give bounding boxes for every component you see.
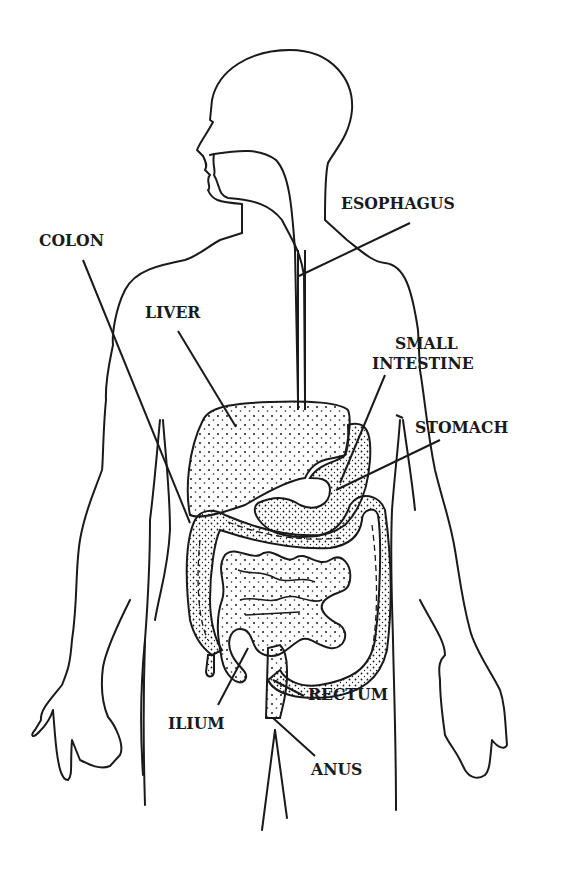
leader-anus: [273, 718, 315, 756]
label-small-intestine-line1: SMALL: [395, 334, 458, 353]
head-outline: [197, 50, 352, 233]
leader-esophagus: [299, 223, 410, 276]
label-stomach: STOMACH: [415, 418, 508, 437]
label-rectum: RECTUM: [308, 685, 388, 704]
mouth-inner: [213, 154, 305, 400]
leg-right: [275, 730, 287, 818]
label-ilium: ILIUM: [168, 714, 225, 733]
leader-colon: [83, 260, 190, 523]
body-outline-drawing: [0, 0, 564, 878]
esophagus-tube-left: [210, 151, 298, 400]
leader-liver: [178, 331, 236, 427]
label-colon: COLON: [39, 231, 104, 250]
leg-left: [262, 730, 275, 830]
arm-right-inner: [391, 420, 400, 810]
arm-right-inner-2: [403, 420, 415, 510]
hip-left: [144, 640, 146, 805]
label-small-intestine-line2: INTESTINE: [372, 354, 474, 373]
label-esophagus: ESOPHAGUS: [341, 194, 455, 213]
label-anus: ANUS: [311, 760, 362, 779]
digestive-system-diagram: ESOPHAGUS COLON LIVER SMALL INTESTINE ST…: [0, 0, 564, 878]
label-liver: LIVER: [145, 303, 200, 322]
